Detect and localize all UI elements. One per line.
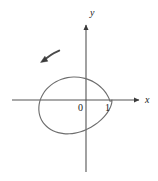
plot-canvas [0, 0, 158, 181]
y-axis-label: y [90, 8, 94, 18]
x-tick-label-1: 1 [105, 103, 110, 113]
cardioid-curve [39, 77, 112, 134]
origin-label: 0 [78, 103, 83, 113]
x-axis-label: x [145, 95, 149, 105]
counterclockwise-direction-arrow [41, 51, 60, 63]
cardioid-figure: y x 0 1 [0, 0, 158, 181]
